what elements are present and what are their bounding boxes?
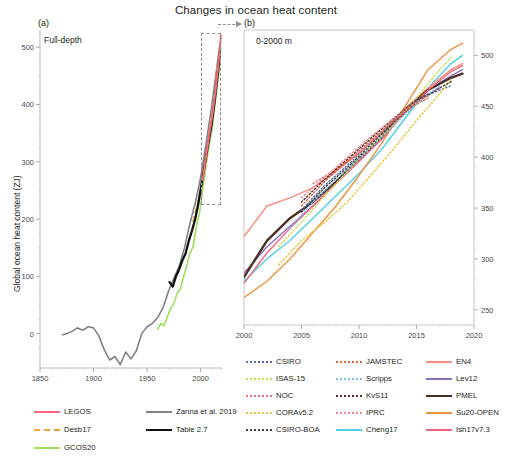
panel-b-legend-item[interactable]: EN4 [426,358,471,366]
panel-b-y-tick-label: 400 [481,153,494,162]
legend-label: Zanna et al. 2019 [176,408,237,416]
legend-label: EN4 [456,358,471,366]
panel-b-legend-item[interactable]: Cheng17 [336,426,398,434]
panel-a-legend-item[interactable]: Desb17 [34,426,91,434]
panel-a-legend-item[interactable]: LEGOS [34,408,91,416]
legend-swatch-icon [336,412,362,414]
legend-swatch-icon [34,429,60,431]
legend-label: JAMSTEC [366,358,402,366]
legend-label: Scripps [366,375,392,383]
legend-label: CSIRO [276,358,301,366]
legend-swatch-icon [426,378,452,380]
legend-label: Lev12 [456,375,477,383]
figure-canvas: Changes in ocean heat content Global oce… [0,0,512,463]
legend-label: Su20-OPEN [456,409,499,417]
panel-b-y-tick-label: 250 [481,306,494,315]
panel-b-y-tick-label: 500 [481,51,494,60]
panel-a-y-tick-label: 400 [14,100,34,109]
panel-b-x-tick-label: 2000 [233,331,255,340]
legend-label: Desb17 [64,426,91,434]
panel-b-legend-item[interactable]: Scripps [336,375,392,383]
legend-label: ISAS-15 [276,375,305,383]
legend-swatch-icon [246,395,272,397]
panel-b-legend-item[interactable]: ISAS-15 [246,375,305,383]
legend-swatch-icon [146,411,172,413]
panel-a-legend-item[interactable]: Table 2.7 [146,426,208,434]
legend-swatch-icon [426,412,452,414]
panel-b-series-corav5-2 [279,80,452,265]
legend-label: CSIRO-BOA [276,426,320,434]
legend-swatch-icon [246,429,272,431]
legend-swatch-icon [336,361,362,363]
legend-swatch-icon [146,429,172,431]
panel-b-legend-item[interactable]: NOC [246,392,293,400]
panel-b-legend-item[interactable]: IPRC [336,409,385,417]
panel-a-legend: LEGOSDesb17GCOS20Zanna et al. 2019Table … [34,408,244,460]
legend-swatch-icon [426,361,452,363]
legend-label: CORAv5.2 [276,409,313,417]
panel-a-y-tick-label: 200 [14,215,34,224]
panel-a-y-tick-label: 500 [14,43,34,52]
panel-a-legend-item[interactable]: GCOS20 [34,444,96,452]
panel-b-x-tick-label: 2005 [291,331,313,340]
legend-swatch-icon [426,429,452,431]
panel-b-legend-item[interactable]: JAMSTEC [336,358,402,366]
panel-a-x-tick-label: 2000 [190,374,212,383]
legend-label: Table 2.7 [176,426,208,434]
legend-swatch-icon [34,447,60,449]
legend-swatch-icon [246,361,272,363]
legend-swatch-icon [34,411,60,413]
legend-label: GCOS20 [64,444,96,452]
panel-a-zoom-box [201,33,221,205]
panel-a-x-tick-label: 1900 [83,374,105,383]
panel-b-x-tick-label: 2020 [463,331,485,340]
panel-b-legend-item[interactable]: CORAv5.2 [246,409,313,417]
legend-label: PMEL [456,392,477,400]
panel-b-legend-item[interactable]: CSIRO-BOA [246,426,320,434]
panel-b-y-tick-label: 350 [481,204,494,213]
legend-label: KvS11 [366,392,388,400]
legend-swatch-icon [336,395,362,397]
legend-swatch-icon [336,378,362,380]
panel-b-series-pmel [244,74,463,277]
legend-label: IPRC [366,409,385,417]
panel-b-legend: CSIROISAS-15NOCCORAv5.2CSIRO-BOAJAMSTECS… [246,358,512,446]
panel-b-legend-item[interactable]: PMEL [426,392,477,400]
panel-a-x-tick-label: 1850 [29,374,51,383]
panel-b-y-tick-label: 300 [481,255,494,264]
legend-swatch-icon [246,378,272,380]
panel-a-y-tick-label: 0 [14,330,34,339]
zoom-connector [218,24,240,25]
legend-label: LEGOS [64,408,91,416]
panel-a-y-tick-label: 300 [14,158,34,167]
panel-b-legend-item[interactable]: Su20-OPEN [426,409,499,417]
panel-a-legend-item[interactable]: Zanna et al. 2019 [146,408,237,416]
legend-swatch-icon [426,395,452,397]
panel-b-legend-item[interactable]: Ish17v7.3 [426,426,490,434]
panel-b-legend-item[interactable]: CSIRO [246,358,301,366]
panel-b-legend-item[interactable]: KvS11 [336,392,388,400]
legend-swatch-icon [336,429,362,431]
legend-label: NOC [276,392,293,400]
panel-a-y-tick-label: 100 [14,272,34,281]
legend-label: Cheng17 [366,426,398,434]
legend-swatch-icon [246,412,272,414]
legend-label: Ish17v7.3 [456,426,490,434]
panel-b-y-tick-label: 450 [481,102,494,111]
panel-b-legend-item[interactable]: Lev12 [426,375,477,383]
panel-a-x-tick-label: 1950 [136,374,158,383]
panel-b-x-tick-label: 2015 [406,331,428,340]
panel-b-x-tick-label: 2010 [348,331,370,340]
